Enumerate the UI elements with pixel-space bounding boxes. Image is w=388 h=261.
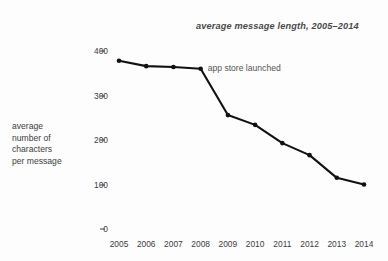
data-point-marker <box>226 113 231 118</box>
annotation-app-store-launched: app store launched <box>208 63 281 73</box>
data-point-marker <box>253 123 258 128</box>
data-point-marker <box>334 176 339 181</box>
data-point-marker <box>171 65 176 70</box>
data-point-marker <box>144 64 149 69</box>
data-point-marker <box>362 182 367 187</box>
data-point-markers <box>117 58 367 186</box>
plot-area <box>0 0 388 261</box>
data-point-marker <box>307 153 312 158</box>
data-point-marker <box>198 67 203 72</box>
chart-container: average message length, 2005–2014 averag… <box>0 0 388 261</box>
data-point-marker <box>117 58 122 63</box>
data-point-marker <box>280 141 285 146</box>
data-line-series <box>119 61 364 185</box>
